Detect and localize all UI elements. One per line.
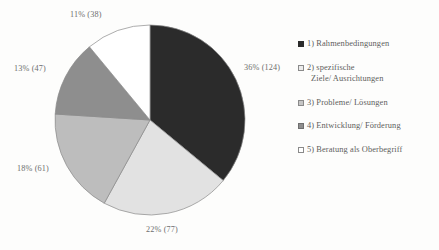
- data-label-slice-2: 22% (77): [146, 225, 178, 234]
- pie-slices-group: [55, 25, 245, 215]
- legend-item-5[interactable]: 5) Beratung als Oberbegriff: [298, 144, 439, 156]
- pie-chart-svg: [0, 0, 300, 250]
- data-label-slice-1: 36% (124): [244, 63, 280, 72]
- legend-label-2-line1: 2) spezifische: [307, 63, 355, 72]
- legend-label-3: 3) Probleme/ Lösungen: [307, 97, 388, 109]
- data-label-slice-4: 13% (47): [14, 64, 46, 73]
- legend-swatch-icon-5: [298, 147, 304, 153]
- legend-label-5: 5) Beratung als Oberbegriff: [307, 144, 402, 156]
- data-label-slice-5: 11% (38): [70, 10, 102, 19]
- legend-label-5-line1: 5) Beratung als Oberbegriff: [307, 145, 402, 154]
- chart-legend: 1) Rahmenbedingungen 2) spezifische Ziel…: [298, 38, 439, 167]
- data-label-slice-3: 18% (61): [17, 164, 49, 173]
- legend-label-1: 1) Rahmenbedingungen: [307, 38, 389, 50]
- legend-item-4[interactable]: 4) Entwicklung/ Förderung: [298, 120, 439, 132]
- pie-chart-area: 11% (38) 36% (124) 22% (77) 18% (61) 13%…: [0, 0, 300, 250]
- legend-item-1[interactable]: 1) Rahmenbedingungen: [298, 38, 439, 50]
- legend-item-3[interactable]: 3) Probleme/ Lösungen: [298, 97, 439, 109]
- legend-swatch-icon-4: [298, 123, 304, 129]
- legend-label-3-line1: 3) Probleme/ Lösungen: [307, 98, 388, 107]
- legend-label-2-line2: Ziele/ Ausrichtungen: [307, 73, 383, 85]
- legend-label-4-line1: 4) Entwicklung/ Förderung: [307, 121, 401, 130]
- chart-page: 11% (38) 36% (124) 22% (77) 18% (61) 13%…: [0, 0, 439, 250]
- legend-swatch-icon-1: [298, 41, 304, 47]
- legend-label-4: 4) Entwicklung/ Förderung: [307, 120, 401, 132]
- legend-swatch-icon-3: [298, 100, 304, 106]
- legend-label-1-line1: 1) Rahmenbedingungen: [307, 39, 389, 48]
- legend-swatch-icon-2: [298, 65, 304, 71]
- legend-item-2[interactable]: 2) spezifische Ziele/ Ausrichtungen: [298, 62, 439, 85]
- legend-label-2: 2) spezifische Ziele/ Ausrichtungen: [307, 62, 383, 85]
